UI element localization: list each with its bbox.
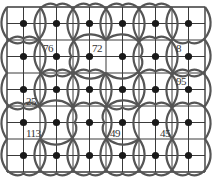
dot <box>119 152 126 159</box>
number-label: 113 <box>26 128 41 139</box>
dot <box>20 119 27 126</box>
dot <box>185 53 192 60</box>
dot <box>86 119 93 126</box>
dot <box>86 20 93 27</box>
dot <box>20 152 27 159</box>
dot <box>185 20 192 27</box>
dot <box>152 20 159 27</box>
dot <box>119 20 126 27</box>
number-label: 72 <box>92 43 102 54</box>
dot <box>152 119 159 126</box>
dot <box>119 53 126 60</box>
dot <box>53 53 60 60</box>
number-label: 76 <box>43 43 53 54</box>
dot <box>86 152 93 159</box>
dot <box>20 86 27 93</box>
dot <box>185 152 192 159</box>
number-label: 8 <box>176 43 181 54</box>
dot <box>53 152 60 159</box>
dot <box>86 86 93 93</box>
dot <box>53 86 60 93</box>
grid-figure <box>0 0 213 184</box>
dot <box>152 152 159 159</box>
dot <box>185 119 192 126</box>
number-label: 45 <box>160 128 170 139</box>
dot <box>20 20 27 27</box>
number-label: 49 <box>110 128 120 139</box>
dot <box>119 86 126 93</box>
dot <box>53 20 60 27</box>
dot <box>152 86 159 93</box>
dot <box>119 119 126 126</box>
number-label: 25 <box>26 96 36 107</box>
dot <box>152 53 159 60</box>
dot <box>53 119 60 126</box>
dot <box>20 53 27 60</box>
number-label: 95 <box>176 76 186 87</box>
